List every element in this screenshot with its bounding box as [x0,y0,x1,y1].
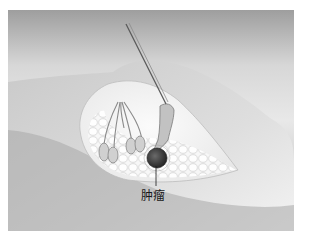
tumor-label: 肿瘤 [141,186,165,203]
tumor [147,148,167,168]
